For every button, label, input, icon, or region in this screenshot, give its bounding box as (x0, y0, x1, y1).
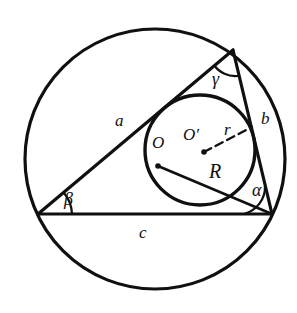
label-incenter: O′ (183, 126, 199, 143)
geometry-canvas (0, 0, 297, 313)
label-inradius: r (224, 121, 231, 138)
incenter-dot (201, 149, 207, 155)
label-circumcenter: O (152, 134, 164, 151)
label-circumradius: R (209, 161, 221, 181)
label-angle-beta: β (64, 190, 73, 208)
geometry-figure: a b c α β γ O O′ r R (0, 0, 297, 313)
circumcircle (25, 29, 285, 289)
label-side-b: b (261, 110, 270, 127)
label-angle-gamma: γ (212, 70, 219, 88)
circumcenter-dot (155, 163, 161, 169)
label-side-a: a (115, 112, 124, 129)
label-angle-alpha: α (252, 181, 261, 199)
label-side-c: c (139, 224, 147, 241)
